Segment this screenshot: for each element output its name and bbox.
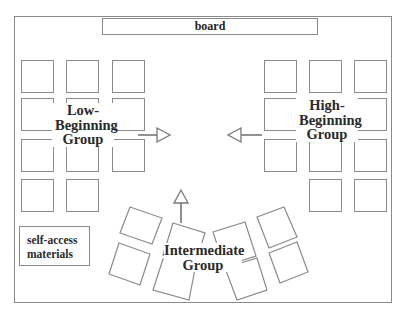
desk — [269, 242, 308, 283]
label-line: Group — [299, 127, 355, 142]
label-line: High- — [299, 98, 355, 113]
arrow-up-icon — [174, 190, 188, 203]
materials-label-line: materials — [27, 247, 89, 261]
desk — [120, 207, 162, 244]
classroom-diagram: board — [0, 0, 406, 317]
label-line: Intermediate — [164, 243, 242, 258]
materials-label-line: self-access — [27, 233, 89, 247]
label-line: Group — [164, 258, 242, 273]
low-beginning-label: Low- Beginning Group — [52, 103, 114, 147]
intermediate-label: Intermediate Group — [164, 243, 242, 272]
high-beginning-label: High- Beginning Group — [296, 98, 358, 142]
arrow-right-icon — [157, 128, 170, 142]
label-line: Beginning — [299, 113, 355, 128]
label-line: Group — [55, 132, 111, 147]
desk — [257, 207, 297, 248]
label-line: Low- — [55, 103, 111, 118]
label-line: Beginning — [55, 118, 111, 133]
self-access-materials-box: self-access materials — [19, 226, 90, 266]
desk — [109, 243, 150, 285]
arrow-left-icon — [228, 128, 241, 142]
